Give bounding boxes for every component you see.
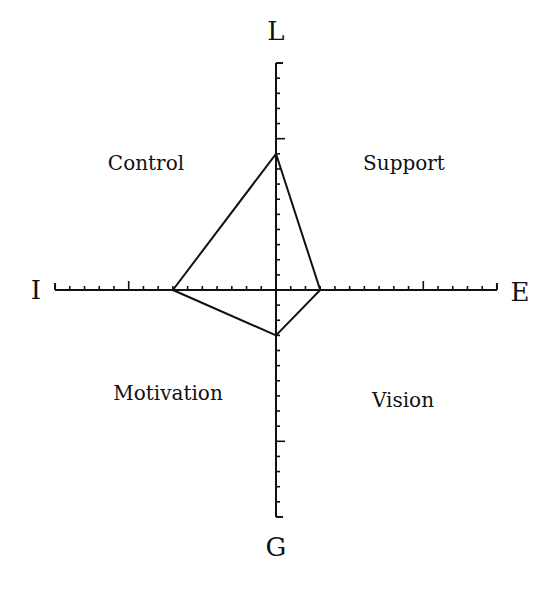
axes — [55, 63, 497, 517]
quadrant-label-vision: Vision — [371, 388, 434, 412]
axis-label-top: L — [267, 16, 284, 46]
axis-label-left: I — [31, 275, 41, 305]
axis-label-right: E — [511, 277, 530, 307]
quadrant-diagram: L G I E Control Support Motivation Visio… — [0, 0, 552, 592]
profile-polygon — [173, 154, 320, 336]
axis-label-bottom: G — [266, 532, 287, 562]
diagram-canvas: L G I E Control Support Motivation Visio… — [0, 0, 552, 592]
quadrant-label-support: Support — [363, 151, 445, 175]
quadrant-label-motivation: Motivation — [113, 381, 223, 405]
quadrant-label-control: Control — [108, 151, 184, 175]
